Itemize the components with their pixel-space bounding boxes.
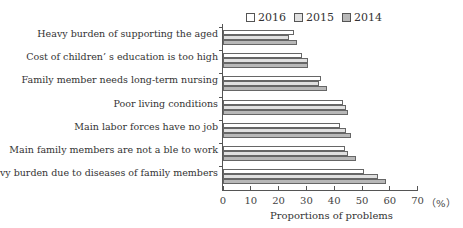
category-label: Heavy burden of supporting the aged [37, 28, 218, 39]
category-label: Heavy burden due to diseases of family m… [0, 167, 218, 178]
x-tick-label: 0 [220, 195, 226, 206]
x-axis-title: Proportions of problems [270, 210, 393, 221]
x-tick-label: 20 [272, 195, 285, 206]
bar-2014 [223, 110, 348, 115]
x-tick [334, 186, 335, 190]
legend-item-2016: 2016 [246, 11, 286, 24]
x-tick [250, 186, 251, 190]
y-tick [219, 50, 222, 51]
bar-2014 [223, 156, 356, 161]
y-tick [219, 143, 222, 144]
category-label: Family member needs long-term nursing [22, 74, 218, 85]
x-tick-label: 40 [328, 195, 341, 206]
x-axis [222, 190, 418, 191]
bar-2014 [223, 133, 351, 138]
bar-2014 [223, 40, 297, 45]
x-tick [306, 186, 307, 190]
x-tick [278, 186, 279, 190]
legend-label-2015: 2015 [306, 11, 334, 24]
y-tick [219, 97, 222, 98]
y-tick [219, 120, 222, 121]
x-tick-label: 50 [356, 195, 369, 206]
legend-swatch-2015 [294, 13, 303, 22]
y-tick [219, 166, 222, 167]
x-tick-label: 30 [300, 195, 313, 206]
x-tick-label: 10 [244, 195, 257, 206]
x-tick [223, 186, 224, 190]
legend-label-2016: 2016 [258, 11, 286, 24]
bar-2014 [223, 63, 308, 68]
x-tick-label: 70 [411, 195, 424, 206]
legend-label-2014: 2014 [354, 11, 382, 24]
category-label: Main family members are not a ble to wor… [9, 144, 218, 155]
y-tick [219, 73, 222, 74]
legend-item-2015: 2015 [294, 11, 334, 24]
bar-2014 [223, 179, 386, 184]
category-label: Main labor forces have no job [74, 121, 218, 132]
legend-swatch-2014 [342, 13, 351, 22]
x-tick [389, 186, 390, 190]
x-tick [417, 186, 418, 190]
x-axis-unit: （%） [426, 195, 456, 210]
x-tick-label: 60 [383, 195, 396, 206]
legend-swatch-2016 [246, 13, 255, 22]
chart-legend: 2016 2015 2014 [246, 11, 382, 24]
legend-item-2014: 2014 [342, 11, 382, 24]
y-tick [219, 27, 222, 28]
category-label: Poor living conditions [113, 98, 218, 109]
x-tick [362, 186, 363, 190]
bar-2014 [223, 86, 327, 91]
category-label: Cost of children’ s education is too hig… [26, 51, 218, 62]
